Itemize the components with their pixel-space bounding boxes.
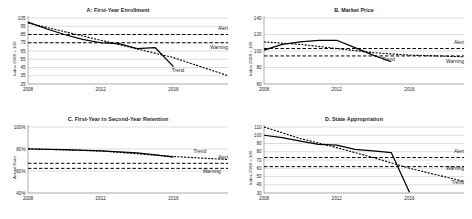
x-tick-label: 2016	[168, 87, 179, 92]
y-tick-label: 100%	[14, 125, 26, 130]
series-label-alert: Alert	[454, 149, 465, 154]
y-tick-label: 80	[256, 149, 262, 154]
y-tick-label: 85	[20, 32, 26, 37]
y-tick-label: 30	[256, 191, 262, 196]
series-label-warning: Warning	[446, 59, 464, 64]
x-tick-label: 2012	[332, 87, 343, 92]
y-tick-label: 100	[254, 133, 262, 138]
y-tick-label: 80%	[16, 147, 25, 152]
panel-a-plot: 2535455565758595105200820122016AlertWarn…	[0, 0, 236, 109]
series-label-alert: Alert	[218, 26, 229, 31]
panel-a-first-year-enrollment: A: First-Year Enrollment Index 2008 = 10…	[0, 0, 236, 109]
y-tick-label: 55	[20, 57, 26, 62]
panel-c-plot: 40%60%80%100%200820122016TrendAlertWarni…	[0, 109, 236, 218]
y-tick-label: 25	[20, 82, 26, 87]
panel-c-retention: C. First-Year to Second-Year Retention A…	[0, 109, 236, 218]
y-tick-label: 35	[20, 73, 26, 78]
series-label-trend: Trend	[451, 180, 464, 185]
y-tick-label: 40	[256, 182, 262, 187]
series-label-alert: Alert	[454, 40, 465, 45]
panel-b-plot: 6080100120140200820122016AlertWarningTre…	[236, 0, 472, 109]
x-tick-label: 2008	[23, 196, 34, 201]
four-panel-indicator-chart: A: First-Year Enrollment Index 2008 = 10…	[0, 0, 472, 219]
y-tick-label: 70	[256, 158, 262, 163]
x-tick-label: 2012	[96, 87, 107, 92]
x-tick-label: 2008	[23, 87, 34, 92]
series-actual	[264, 135, 409, 192]
y-tick-label: 120	[254, 32, 262, 37]
y-tick-label: 110	[254, 125, 262, 130]
series-label-trend: Trend	[194, 149, 207, 154]
y-tick-label: 140	[254, 16, 262, 21]
x-tick-label: 2012	[96, 196, 107, 201]
y-tick-label: 50	[256, 174, 262, 179]
series-label-alert: Alert	[218, 155, 229, 160]
x-tick-label: 2016	[168, 196, 179, 201]
y-tick-label: 60	[256, 166, 262, 171]
series-actual	[28, 149, 173, 157]
y-tick-label: 75	[20, 40, 26, 45]
x-tick-label: 2008	[259, 196, 270, 201]
x-tick-label: 2012	[332, 196, 343, 201]
y-tick-label: 95	[20, 24, 26, 29]
y-tick-label: 45	[20, 65, 26, 70]
y-tick-label: 80	[256, 65, 262, 70]
y-tick-label: 40%	[16, 191, 25, 196]
y-tick-label: 100	[254, 49, 262, 54]
panel-d-state-appropriation: D. State Appropriation Index 2008 = 100 …	[236, 109, 472, 218]
y-tick-label: 105	[18, 16, 26, 21]
series-label-warning: Warning	[210, 45, 228, 50]
y-tick-label: 60%	[16, 169, 25, 174]
y-tick-label: 65	[20, 49, 26, 54]
series-label-warning: Warning	[446, 166, 464, 171]
x-tick-label: 2016	[404, 87, 415, 92]
y-tick-label: 90	[256, 141, 262, 146]
series-label-trend: Trend	[172, 68, 185, 73]
series-label-warning: Warning	[203, 169, 221, 174]
x-tick-label: 2016	[404, 196, 415, 201]
panel-d-plot: 30405060708090100110200820122016AlertWar…	[236, 109, 472, 218]
y-tick-label: 60	[256, 82, 262, 87]
x-tick-label: 2008	[259, 87, 270, 92]
series-label-trend: Trend	[382, 57, 395, 62]
panel-b-market-price: B. Market Price Index 2008 = 100 6080100…	[236, 0, 472, 109]
series-trend	[264, 42, 464, 57]
series-actual	[28, 22, 173, 67]
series-trend	[28, 23, 228, 76]
